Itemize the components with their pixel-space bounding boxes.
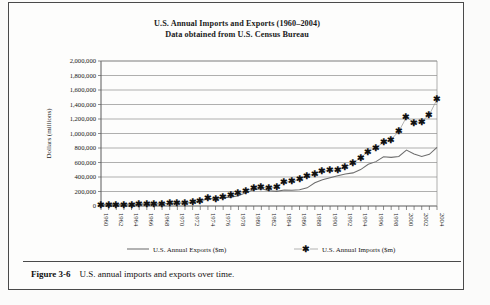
y-axis-tick-label: 600,000: [75, 159, 97, 166]
y-axis-tick-label: 1,000,000: [70, 130, 97, 137]
x-axis-tick-label: 1982: [271, 213, 278, 226]
chart-legend: U.S. Annual Exports ($m)✱U.S. Annual Imp…: [127, 244, 396, 254]
x-axis-tick-label: 1988: [316, 213, 323, 227]
x-axis-tick-label: 1992: [347, 213, 354, 226]
data-point-marker: ✱: [425, 110, 433, 120]
x-axis-tick-label: 1962: [118, 213, 125, 226]
x-axis-tick-label: 1984: [286, 213, 293, 227]
chart-svg: 0200,000400,000600,000800,0001,000,0001,…: [9, 3, 465, 291]
y-axis-tick-label: 800,000: [75, 144, 97, 151]
chart-plot-area: 0200,000400,000600,000800,0001,000,0001,…: [9, 3, 465, 291]
x-axis-tick-label: 1986: [301, 213, 308, 227]
grid-group: [101, 61, 437, 192]
figure-caption: Figure 3-6U.S. annual imports and export…: [31, 269, 451, 279]
x-axis-tick-label: 1998: [393, 213, 400, 227]
x-axis-tick-label: 1976: [225, 213, 232, 227]
x-axis-tick-label: 1994: [362, 213, 369, 227]
y-axis-tick-label: 2,000,000: [70, 57, 97, 64]
legend-label-exports: U.S. Annual Exports ($m): [153, 246, 227, 254]
x-axis-tick-label: 1960: [103, 213, 110, 227]
x-axis-tick-label: 1978: [240, 213, 247, 227]
x-axis-tick-label: 1964: [133, 213, 140, 227]
y-axis-tick-label: 1,200,000: [70, 115, 97, 122]
y-axis-tick-group: 0200,000400,000600,000800,0001,000,0001,…: [70, 57, 101, 209]
x-axis-tick-label: 1996: [378, 213, 385, 227]
legend-asterisk-icon: ✱: [302, 244, 310, 254]
x-axis-tick-label: 1974: [210, 213, 217, 227]
x-axis-tick-label: 2002: [423, 213, 430, 226]
y-axis-tick-label: 1,600,000: [70, 86, 97, 93]
x-axis-tick-label: 1966: [148, 213, 155, 227]
y-axis-tick-label: 200,000: [75, 188, 97, 195]
series-group: ✱✱✱✱✱✱✱✱✱✱✱✱✱✱✱✱✱✱✱✱✱✱✱✱✱✱✱✱✱✱✱✱✱✱✱✱✱✱✱✱…: [97, 94, 441, 209]
figure-container: U.S. Annual Imports and Exports (1960–20…: [8, 2, 464, 290]
y-axis-title: Dollars (millions): [45, 108, 53, 159]
x-axis-tick-label: 1972: [194, 213, 201, 226]
y-axis-tick-label: 400,000: [75, 173, 97, 180]
legend-label-imports: U.S. Annual Imports ($m): [322, 246, 396, 254]
x-axis-tick-label: 1990: [332, 213, 339, 227]
y-axis-tick-label: 1,800,000: [70, 72, 97, 79]
x-axis-tick-label: 2000: [408, 213, 415, 227]
figure-number: Figure 3-6: [31, 269, 71, 279]
x-axis-tick-label: 1968: [164, 213, 171, 227]
data-point-marker: ✱: [433, 94, 441, 104]
x-axis-tick-label: 1980: [255, 213, 262, 227]
x-axis-tick-group: 1960196219641966196819701972197419761978…: [101, 206, 446, 227]
figure-caption-text: U.S. annual imports and exports over tim…: [80, 269, 235, 279]
caption-divider: [23, 261, 461, 262]
x-axis-tick-label: 1970: [179, 213, 186, 227]
series-line-0: [101, 147, 437, 204]
data-point-marker: ✱: [395, 126, 403, 136]
y-axis-tick-label: 1,400,000: [70, 101, 97, 108]
x-axis-tick-label: 2004: [439, 213, 446, 227]
